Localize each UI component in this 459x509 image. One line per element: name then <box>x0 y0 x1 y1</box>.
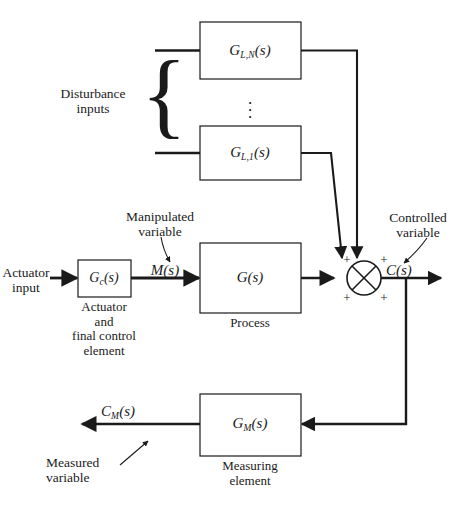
actuator-caption-line1: Actuator <box>72 300 136 315</box>
disturbance-inputs-label: Disturbance inputs <box>60 86 125 116</box>
disturbance-n-output-path <box>301 51 357 259</box>
process-block-label: G(s) <box>237 269 264 286</box>
measuring-caption-line2: element <box>222 474 278 489</box>
manipulated-variable-leader <box>161 237 170 262</box>
diagram-lines <box>0 0 459 509</box>
measuring-block-caption: Measuring element <box>222 459 278 488</box>
disturbance-1-output-path <box>301 153 342 258</box>
measured-variable-leader <box>120 441 148 465</box>
summing-junction-plus-bottom: + <box>380 291 387 304</box>
summing-junction-plus-left: + <box>343 291 350 304</box>
measured-variable-symbol: CM(s) <box>101 403 135 421</box>
manipulated-variable-line1: Manipulated <box>126 209 194 224</box>
measuring-caption-line1: Measuring <box>222 459 278 474</box>
actuator-block-caption: Actuator and final control element <box>72 300 136 358</box>
actuator-block-label: Gc(s) <box>89 270 118 287</box>
disturbance-n-block-label: GL,N(s) <box>229 42 270 60</box>
feedback-path <box>302 278 406 424</box>
actuator-input-line2: input <box>2 280 49 295</box>
measured-variable-label: Measured variable <box>46 455 99 485</box>
measuring-block-label: GM(s) <box>233 415 268 433</box>
controlled-variable-symbol: C(s) <box>386 262 412 279</box>
actuator-caption-line4: element <box>72 344 136 359</box>
process-block-caption: Process <box>230 316 270 331</box>
measured-variable-line2: variable <box>46 470 99 485</box>
controlled-variable-leader <box>404 238 427 263</box>
manipulated-variable-line2: variable <box>126 224 194 239</box>
controlled-variable-line2: variable <box>389 225 447 240</box>
disturbance-inputs-line1: Disturbance <box>60 86 125 101</box>
disturbance-1-block-label: GL,1(s) <box>230 144 270 162</box>
block-diagram-figure: GL,N(s) ... GL,1(s) Disturbance inputs {… <box>0 0 459 509</box>
controlled-variable-line1: Controlled <box>389 210 447 225</box>
actuator-input-label: Actuator input <box>2 265 49 295</box>
actuator-caption-line3: final control <box>72 329 136 344</box>
disturbance-inputs-line2: inputs <box>60 101 125 116</box>
measured-variable-line1: Measured <box>46 455 99 470</box>
summing-junction-plus-top-left: + <box>343 253 350 266</box>
disturbance-brace: { <box>141 46 187 142</box>
actuator-caption-line2: and <box>72 315 136 330</box>
controlled-variable-label: Controlled variable <box>389 210 447 240</box>
manipulated-variable-symbol: M(s) <box>151 262 179 279</box>
actuator-input-line1: Actuator <box>2 265 49 280</box>
manipulated-variable-label: Manipulated variable <box>126 209 194 239</box>
vertical-ellipsis: ... <box>248 95 252 116</box>
